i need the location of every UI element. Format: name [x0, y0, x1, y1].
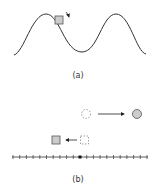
caption-b: (b) [72, 175, 83, 184]
panel-a: (a) [14, 12, 146, 80]
sinusoidal-track [14, 14, 146, 55]
block-square [55, 16, 63, 24]
gray-circle [133, 110, 142, 119]
gray-square [52, 136, 60, 144]
dashed-square-origin [81, 136, 89, 144]
panel-b: (b) [12, 110, 148, 185]
dashed-circle-origin [82, 110, 91, 119]
lattice-ticks [13, 155, 147, 159]
caption-a: (a) [72, 71, 83, 80]
motion-arrow [66, 12, 69, 17]
lattice-center-marker [79, 156, 82, 159]
diagram: (a) (b) [0, 0, 157, 191]
